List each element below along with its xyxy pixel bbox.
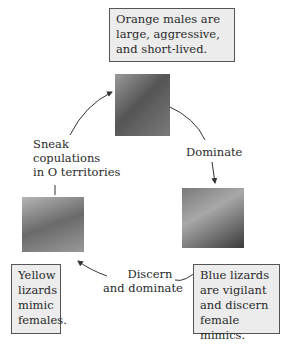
arrow-orange-to-blue [168, 106, 205, 140]
arrow-dominate-to-blue [212, 162, 215, 183]
orange-male-caption: Orange males are large, aggressive, and … [109, 8, 235, 62]
dominate-label: Dominate [186, 145, 242, 159]
blue-lizard-caption: Blue lizards are vigilant and discern fe… [193, 264, 280, 334]
sneak-copulations-label: Sneak copulations in O territories [33, 137, 120, 179]
arrow-sneak-to-orange [70, 92, 112, 135]
blue-lizard-photo [182, 188, 244, 248]
yellow-lizard-photo [22, 197, 84, 252]
discern-and-dominate-label: Discern and dominate [103, 267, 183, 295]
orange-lizard-photo [115, 74, 170, 136]
yellow-lizard-caption: Yellow lizards mimic females. [11, 264, 61, 334]
